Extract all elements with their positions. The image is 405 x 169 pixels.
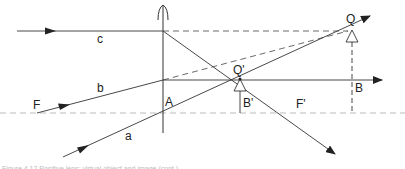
label-image-base: B' [243, 96, 253, 110]
label-object-base: B [355, 81, 363, 95]
label-point-a: A [165, 95, 173, 109]
label-ray-a: a [125, 129, 132, 143]
lens [158, 5, 168, 133]
lens-ray-diagram: c b a F F' A Q B Q' B' Figure 4.12 Posit… [0, 0, 405, 169]
label-ray-c: c [97, 32, 103, 46]
virtual-object [346, 30, 358, 113]
ray-b [37, 31, 382, 113]
label-focus-front: F [33, 98, 40, 112]
ray-a [63, 16, 370, 157]
label-focus-back: F' [296, 97, 306, 111]
label-ray-b: b [97, 81, 104, 95]
figure-caption: Figure 4.12 Positive lens: virtual objec… [2, 165, 178, 169]
label-image-top: Q' [233, 63, 245, 77]
label-object-top: Q [346, 12, 355, 26]
ray-c [17, 28, 348, 155]
